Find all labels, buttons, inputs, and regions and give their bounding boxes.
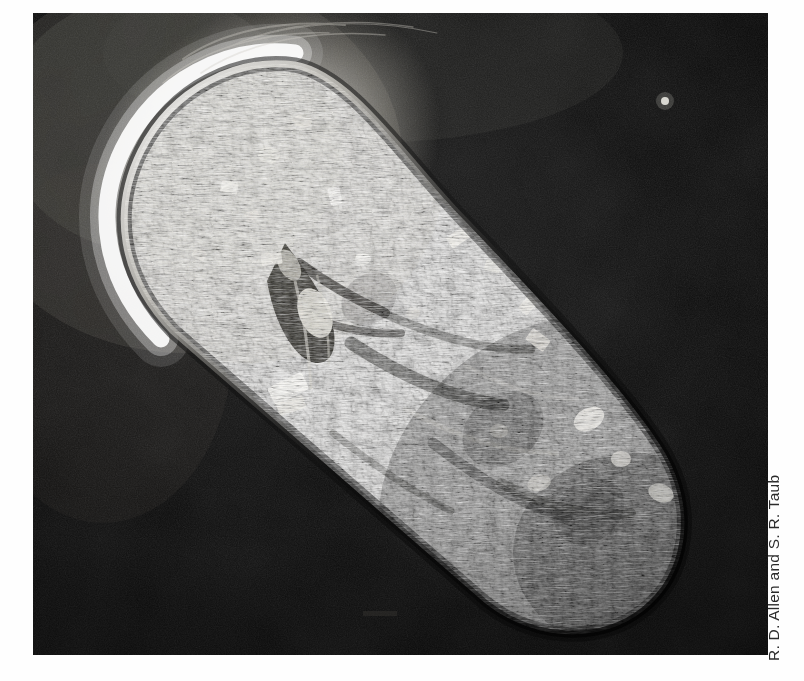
film-grain xyxy=(33,13,768,655)
micrograph-canvas xyxy=(33,13,768,655)
photomicrograph-plate xyxy=(33,13,768,655)
photo-credit: R. D. Allen and S. R. Taub xyxy=(762,455,786,661)
photo-credit-text: R. D. Allen and S. R. Taub xyxy=(762,455,786,661)
page-root: R. D. Allen and S. R. Taub xyxy=(0,0,804,681)
